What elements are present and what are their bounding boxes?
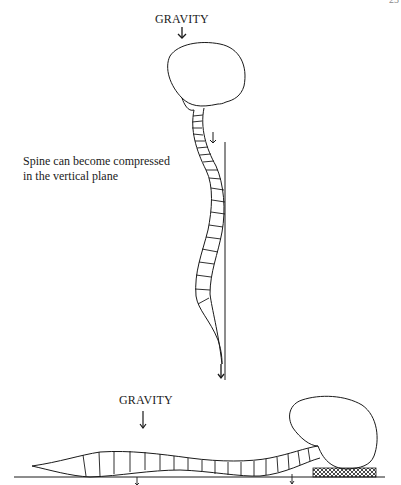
pillow-support [313,468,376,477]
neck-arrow-icon [210,132,216,143]
vertebrae-lying [83,448,310,476]
ground-arrow-icon [290,474,294,484]
spine-lying-bottom-edge [32,458,320,477]
ground-arrow-icon [135,477,139,485]
base-arrow-icon [218,364,224,378]
head-outline-lying [290,396,378,469]
gravity-arrow-icon [140,411,146,428]
head-outline [168,43,245,107]
gravity-arrow-icon [178,27,186,38]
spine-diagram [0,0,401,485]
spine-lying-top-edge [32,446,318,466]
